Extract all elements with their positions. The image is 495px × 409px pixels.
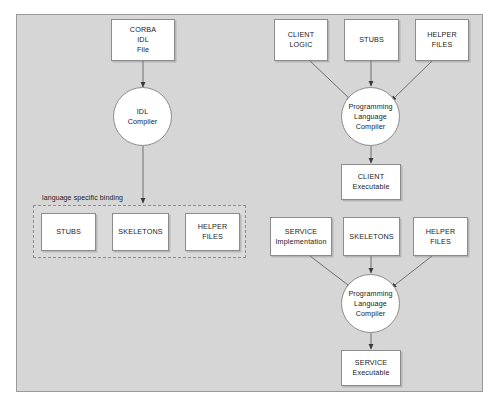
node-service-implementation: SERVICE Implementation <box>270 217 332 256</box>
node-corba-idl-file: CORBA IDL File <box>111 19 175 61</box>
node-client-compiler: Programming Language Compiler <box>341 87 400 146</box>
node-service-executable-line-1: SERVICE <box>355 358 387 368</box>
language-specific-binding-label: language specific binding <box>42 194 123 201</box>
node-binding-helper-files-line-1: HELPER <box>198 222 228 232</box>
node-binding-skeletons-label: SKELETONS <box>118 227 162 237</box>
node-service-executable-line-2: Executable <box>352 368 389 378</box>
node-service-helper-files: HELPER FILES <box>413 217 468 256</box>
node-client-compiler-line-1: Programming <box>348 102 392 112</box>
diagram-canvas <box>16 14 483 392</box>
node-corba-idl-file-line-1: CORBA <box>130 25 156 35</box>
node-binding-helper-files: HELPER FILES <box>185 213 240 251</box>
node-service-compiler: Programming Language Compiler <box>341 274 400 333</box>
node-client-stubs: STUBS <box>344 19 399 61</box>
node-client-executable-line-1: CLIENT <box>358 172 384 182</box>
node-binding-helper-files-line-2: FILES <box>202 232 223 242</box>
node-service-compiler-line-1: Programming <box>348 289 392 299</box>
node-idl-compiler: IDL Compiler <box>113 87 172 146</box>
node-idl-compiler-line-1: IDL <box>137 107 149 117</box>
node-service-skeletons-label: SKELETONS <box>349 232 393 242</box>
node-idl-compiler-line-2: Compiler <box>128 117 158 127</box>
node-service-helper-files-line-2: FILES <box>430 237 451 247</box>
node-service-implementation-line-1: SERVICE <box>285 227 317 237</box>
node-client-helper-files-line-1: HELPER <box>427 30 457 40</box>
node-client-stubs-label: STUBS <box>359 35 384 45</box>
node-corba-idl-file-line-3: File <box>137 45 149 55</box>
node-client-executable: CLIENT Executable <box>341 164 401 200</box>
node-client-helper-files-line-2: FILES <box>432 40 453 50</box>
node-binding-stubs-label: STUBS <box>56 227 81 237</box>
node-corba-idl-file-line-2: IDL <box>137 35 149 45</box>
node-client-compiler-line-3: Compiler <box>356 122 386 132</box>
node-service-executable: SERVICE Executable <box>341 350 401 386</box>
node-client-logic-line-2: LOGIC <box>289 40 312 50</box>
node-service-helper-files-line-1: HELPER <box>426 227 456 237</box>
node-client-executable-line-2: Executable <box>352 182 389 192</box>
node-client-logic: CLIENT LOGIC <box>274 19 328 61</box>
node-service-skeletons: SKELETONS <box>343 217 400 256</box>
node-service-implementation-line-2: Implementation <box>275 237 326 247</box>
node-service-compiler-line-2: Language <box>354 299 387 309</box>
diagram-root: language specific binding CORBA IDL File… <box>0 0 495 409</box>
node-client-logic-line-1: CLIENT <box>288 30 314 40</box>
node-client-compiler-line-2: Language <box>354 112 387 122</box>
node-binding-skeletons: SKELETONS <box>112 213 169 251</box>
node-binding-stubs: STUBS <box>41 213 96 251</box>
node-client-helper-files: HELPER FILES <box>415 19 469 61</box>
node-service-compiler-line-3: Compiler <box>356 309 386 319</box>
